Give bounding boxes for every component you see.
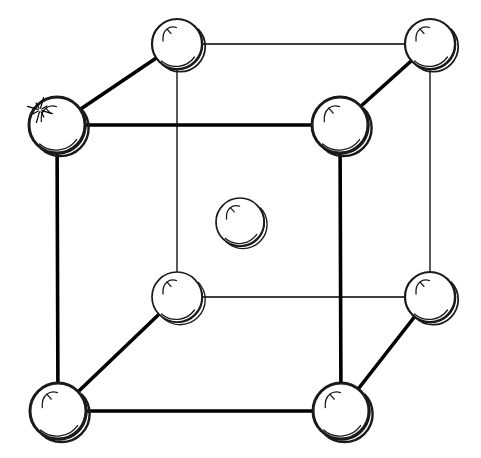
corner-back-top-left-outline: [152, 19, 202, 69]
lattice-diagram: [0, 0, 481, 458]
corner-front-top-right-outline: [312, 97, 368, 153]
corner-front-bottom-right-outline: [313, 383, 369, 439]
edge-front-left: [57, 125, 58, 411]
corner-front-bottom-left-outline: [30, 383, 86, 439]
corner-back-bottom-left-outline: [152, 272, 202, 322]
corner-back-bottom-right-outline: [405, 272, 455, 322]
corner-back-top-right-outline: [405, 19, 455, 69]
edge-front-right: [340, 125, 341, 411]
bcc-lattice-figure: [0, 0, 481, 458]
atom-body-center-outline: [216, 198, 264, 246]
